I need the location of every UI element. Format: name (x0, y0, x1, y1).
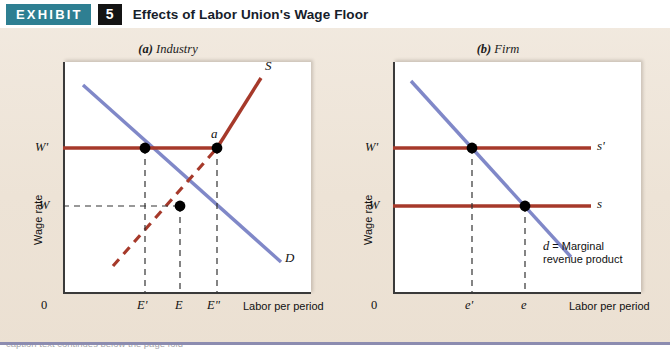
x-tick-edoubleprime: E" (207, 298, 220, 313)
panel-b-plot-area: s' s d = Marginal revenue product W' W e… (393, 62, 641, 294)
panel-a-tag: (a) (138, 42, 153, 56)
supply-above-floor (217, 78, 261, 148)
panel-a-x-axis-label: Labor per period (243, 300, 324, 312)
panel-b-x-axis-label: Labor per period (569, 300, 650, 312)
demand-curve-d (83, 85, 281, 262)
firm-supply-label: s (597, 196, 602, 212)
x-tick-eprime: E' (137, 298, 147, 313)
firm-x-tick-eprime: e' (465, 298, 473, 313)
supply-curve-label: S (265, 58, 272, 74)
panel-b-title: (b) Firm (338, 42, 658, 57)
firm-x-tick-e: e (521, 298, 527, 313)
exhibit-number-box: 5 (98, 4, 122, 25)
point-equilibrium (175, 201, 186, 212)
point-firm-employment-market (520, 201, 531, 212)
point-a-label: a (211, 126, 218, 142)
origin-label-a: 0 (41, 298, 47, 313)
y-tick-wage-floor: W' (35, 140, 48, 155)
panel-firm: (b) Firm Wage rate s' (338, 40, 658, 328)
panel-industry: (a) Industry Wage rate (8, 40, 328, 328)
exhibit-badge: EXHIBIT (6, 4, 91, 25)
exhibit-header: EXHIBIT 5 Effects of Labor Union's Wage … (0, 0, 670, 28)
mrp-text-line2: revenue product (543, 253, 623, 265)
origin-label-b: 0 (371, 298, 377, 313)
panel-a-curves (63, 62, 311, 294)
firm-demand-curve-mrp (411, 81, 571, 257)
firm-supply-floor-label: s' (597, 138, 605, 154)
footer-cutoff-text: caption text continues below the page fo… (0, 345, 670, 356)
firm-y-tick-equilibrium-wage: W (369, 198, 379, 213)
panel-a-plot-area: S D a W' W E' E E" 0 Labor per period (63, 62, 311, 294)
panel-a-title: (a) Industry (8, 42, 328, 57)
panel-b-name: Firm (494, 42, 519, 56)
panel-b-tag: (b) (477, 42, 492, 56)
point-a (212, 143, 223, 154)
footer-cutoff-label: caption text continues below the page fo… (6, 345, 183, 349)
panel-a-name: Industry (156, 42, 198, 56)
demand-curve-label: D (285, 250, 294, 266)
exhibit-title: Effects of Labor Union's Wage Floor (133, 7, 369, 22)
point-firm-employment-at-floor (467, 143, 478, 154)
exhibit-root: EXHIBIT 5 Effects of Labor Union's Wage … (0, 0, 670, 356)
firm-y-tick-wage-floor: W' (365, 140, 378, 155)
mrp-label: d = Marginal revenue product (543, 240, 623, 266)
y-tick-equilibrium-wage: W (39, 198, 49, 213)
original-supply-dashed (113, 148, 217, 266)
mrp-equals-text: = Marginal (549, 240, 604, 252)
x-tick-e: E (175, 298, 183, 313)
point-employment-at-floor (140, 143, 151, 154)
